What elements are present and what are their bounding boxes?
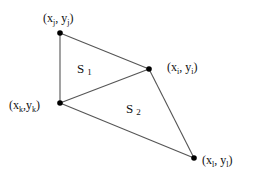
edge-k-i [60, 69, 149, 103]
point-j [57, 30, 63, 36]
label-point-l: (xl, yl) [202, 154, 232, 166]
label-point-k: (xk,yk) [9, 99, 40, 111]
point-l [191, 155, 197, 161]
region-label-s2: S2 [126, 102, 141, 115]
region-label-s1: S1 [77, 62, 92, 75]
edge-j-i [60, 33, 149, 69]
edge-i-l [149, 69, 194, 158]
label-point-j: (xj, yj) [43, 12, 73, 24]
point-k [57, 100, 63, 106]
label-point-i: (xi, yi) [167, 61, 197, 73]
point-i [146, 66, 152, 72]
